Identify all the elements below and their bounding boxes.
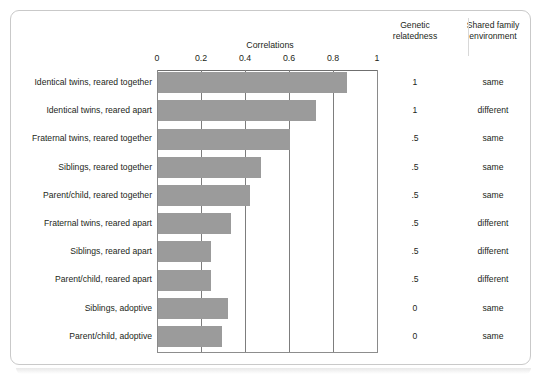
cell-shared-family-environment: different xyxy=(452,239,534,265)
table-row: Parent/child, reared apart.5different xyxy=(0,267,545,293)
row-label: Parent/child, reared together xyxy=(14,183,152,209)
cell-genetic-relatedness: .5 xyxy=(379,155,451,181)
table-row: Parent/child, adoptive0same xyxy=(0,324,545,350)
bar xyxy=(158,129,290,150)
cell-shared-family-environment: same xyxy=(452,324,534,350)
table-row: Fraternal twins, reared together.5same xyxy=(0,126,545,152)
bar xyxy=(158,185,250,206)
bar xyxy=(158,213,231,234)
cell-genetic-relatedness: .5 xyxy=(379,211,451,237)
table-row: Siblings, reared together.5same xyxy=(0,155,545,181)
chart-rows: Identical twins, reared together1sameIde… xyxy=(0,70,545,352)
row-label: Siblings, adoptive xyxy=(14,296,152,322)
x-axis-tick-label-0.2: 0.2 xyxy=(188,53,214,63)
row-label: Fraternal twins, reared together xyxy=(14,126,152,152)
cell-genetic-relatedness: 0 xyxy=(379,296,451,322)
x-axis-tick-label-0.6: 0.6 xyxy=(276,53,302,63)
cell-genetic-relatedness: 1 xyxy=(379,98,451,124)
cell-shared-family-environment: same xyxy=(452,126,534,152)
bar xyxy=(158,298,228,319)
row-label: Parent/child, adoptive xyxy=(14,324,152,350)
column-header-genetic-relatedness: Genetic relatedness xyxy=(379,20,451,42)
cell-shared-family-environment: same xyxy=(452,183,534,209)
x-axis-tick-label-1: 1 xyxy=(364,53,390,63)
cell-genetic-relatedness: 0 xyxy=(379,324,451,350)
column-header-genetic-line1: Genetic xyxy=(379,20,451,31)
table-row: Identical twins, reared together1same xyxy=(0,70,545,96)
cell-genetic-relatedness: 1 xyxy=(379,70,451,96)
cell-genetic-relatedness: .5 xyxy=(379,267,451,293)
bar xyxy=(158,157,261,178)
column-header-shared-family-environment: Shared family environment xyxy=(452,20,534,42)
cell-shared-family-environment: different xyxy=(452,211,534,237)
column-header-shared-line1: Shared family xyxy=(452,20,534,31)
table-row: Siblings, adoptive0same xyxy=(0,296,545,322)
x-axis-title: Correlations xyxy=(205,40,335,50)
cell-genetic-relatedness: .5 xyxy=(379,239,451,265)
bar xyxy=(158,270,211,291)
cell-shared-family-environment: different xyxy=(452,98,534,124)
x-axis-tick-label-0: 0 xyxy=(144,53,170,63)
cell-genetic-relatedness: .5 xyxy=(379,126,451,152)
column-header-shared-line2: environment xyxy=(452,31,534,42)
x-axis-tick-label-0.4: 0.4 xyxy=(232,53,258,63)
table-row: Siblings, reared apart.5different xyxy=(0,239,545,265)
cell-shared-family-environment: same xyxy=(452,155,534,181)
column-separator xyxy=(468,18,469,56)
cell-genetic-relatedness: .5 xyxy=(379,183,451,209)
bar xyxy=(158,100,316,121)
bar xyxy=(158,241,211,262)
row-label: Identical twins, reared together xyxy=(14,70,152,96)
row-label: Parent/child, reared apart xyxy=(14,267,152,293)
cell-shared-family-environment: same xyxy=(452,296,534,322)
row-label: Siblings, reared together xyxy=(14,155,152,181)
figure-shadow xyxy=(16,368,531,374)
table-row: Parent/child, reared together.5same xyxy=(0,183,545,209)
row-label: Fraternal twins, reared apart xyxy=(14,211,152,237)
bar xyxy=(158,326,222,347)
column-header-genetic-line2: relatedness xyxy=(379,31,451,42)
row-label: Identical twins, reared apart xyxy=(14,98,152,124)
cell-shared-family-environment: different xyxy=(452,267,534,293)
x-axis-bottom-rule xyxy=(157,352,378,353)
x-axis-tick-label-0.8: 0.8 xyxy=(320,53,346,63)
table-row: Fraternal twins, reared apart.5different xyxy=(0,211,545,237)
table-row: Identical twins, reared apart1different xyxy=(0,98,545,124)
row-label: Siblings, reared apart xyxy=(14,239,152,265)
cell-shared-family-environment: same xyxy=(452,70,534,96)
bar xyxy=(158,72,347,93)
